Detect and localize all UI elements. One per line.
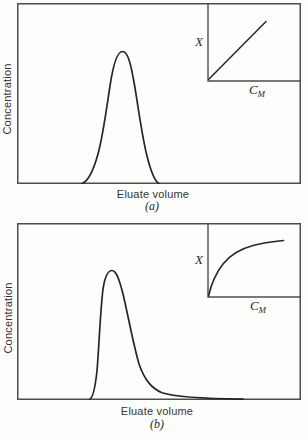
panel-b-inset-axes	[208, 224, 300, 297]
figure: Concentration Eluate volume (a) X CM Con…	[0, 0, 308, 441]
panel-b-inset-x-label-sub: M	[259, 305, 267, 315]
panel-a-inset-x-label: CM	[249, 83, 265, 96]
panel-a-inset-y-label: X	[195, 35, 203, 48]
panel-a-peak-curve	[82, 52, 159, 184]
panel-a-inset-x-label-base: C	[249, 82, 258, 97]
panel-b-inset-x-label-base: C	[250, 298, 259, 313]
panel-a-inset-curve	[209, 22, 266, 80]
panel-a-caption: (a)	[145, 200, 159, 212]
panel-b-caption: (b)	[150, 418, 164, 430]
panel-b-peak-curve	[90, 271, 243, 400]
panel-a-inset-axes	[208, 4, 300, 81]
panel-a-inset-x-label-sub: M	[258, 89, 266, 99]
panel-a-y-axis-label: Concentration	[2, 63, 13, 134]
panel-b-y-axis-label: Concentration	[3, 282, 14, 353]
panel-b-inset-y-label: X	[195, 253, 203, 266]
panel-b-x-axis-label: Eluate volume	[121, 406, 193, 417]
panel-b-inset-x-label: CM	[250, 299, 266, 312]
panel-a-x-axis-label: Eluate volume	[117, 189, 189, 200]
panel-b-inset-curve	[209, 241, 284, 297]
